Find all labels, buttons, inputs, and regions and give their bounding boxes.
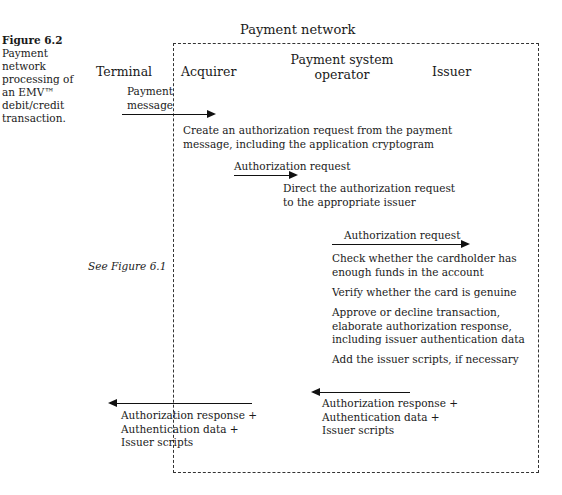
step-line: to the appropriate issuer <box>283 196 455 210</box>
lane-terminal: Terminal <box>96 64 152 79</box>
figure-label: Figure 6.2 <box>2 34 82 47</box>
lane-payment-system-operator: Payment system operator <box>282 52 402 82</box>
step-issuer-add-scripts: Add the issuer scripts, if necessary <box>332 353 519 367</box>
page-header-cutoff <box>0 0 300 4</box>
arrow-response-issuer-to-pso <box>313 392 410 393</box>
step-line: enough funds in the account <box>332 266 517 280</box>
step-line: message, including the application crypt… <box>183 138 452 152</box>
step-issuer-approve-decline: Approve or decline transaction, elaborat… <box>332 306 525 347</box>
lane-pso-line2: operator <box>282 67 402 82</box>
figure-caption-text: Payment network processing of an EMV™ de… <box>2 47 73 124</box>
response-line: Issuer scripts <box>121 436 257 450</box>
payment-message-line2: message <box>122 98 178 112</box>
lane-issuer: Issuer <box>432 64 471 79</box>
step-issuer-verify-card: Verify whether the card is genuine <box>332 286 517 300</box>
step-line: Direct the authorization request <box>283 182 455 196</box>
lane-pso-line1: Payment system <box>282 52 402 67</box>
step-line: Add the issuer scripts, if necessary <box>332 353 519 367</box>
lane-acquirer: Acquirer <box>181 64 236 79</box>
step-line: Verify whether the card is genuine <box>332 286 517 300</box>
response-line: Authentication data + <box>121 423 257 437</box>
response-label-terminal: Authorization response + Authentication … <box>121 409 257 450</box>
arrow-auth-request-acquirer-to-pso <box>234 175 296 176</box>
response-line: Authorization response + <box>121 409 257 423</box>
arrow-auth-request-pso-to-issuer <box>332 244 468 245</box>
response-line: Authentication data + <box>322 411 458 425</box>
step-line: elaborate authorization response, <box>332 320 525 334</box>
step-line: Create an authorization request from the… <box>183 124 452 138</box>
arrow-response-acquirer-to-terminal <box>110 403 252 404</box>
payment-message-label: Payment message <box>122 84 178 112</box>
figure-caption: Figure 6.2 Payment network processing of… <box>2 34 82 125</box>
payment-network-title: Payment network <box>240 22 355 37</box>
auth-request-label-2: Authorization request <box>344 228 460 242</box>
step-line: Check whether the cardholder has <box>332 252 517 266</box>
arrow-payment-message <box>122 114 214 115</box>
response-line: Authorization response + <box>322 397 458 411</box>
response-label-pso: Authorization response + Authentication … <box>322 397 458 438</box>
step-line: including issuer authentication data <box>332 333 525 347</box>
payment-message-line1: Payment <box>122 84 178 98</box>
see-figure-reference: See Figure 6.1 <box>88 260 166 272</box>
response-line: Issuer scripts <box>322 424 458 438</box>
step-acquirer-create-request: Create an authorization request from the… <box>183 124 452 151</box>
step-line: Approve or decline transaction, <box>332 306 525 320</box>
step-pso-direct-request: Direct the authorization request to the … <box>283 182 455 209</box>
step-issuer-check-funds: Check whether the cardholder has enough … <box>332 252 517 279</box>
